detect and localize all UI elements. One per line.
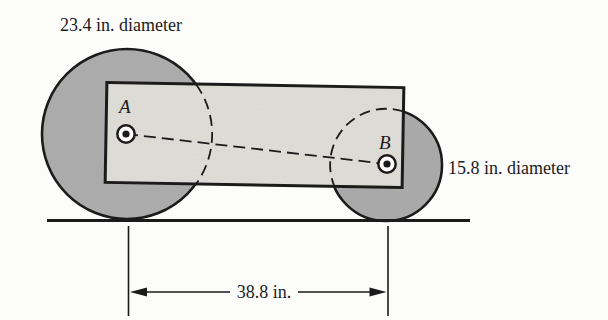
wheelbase-label: 38.8 in. bbox=[237, 282, 292, 302]
left-arrowhead-icon bbox=[130, 288, 147, 297]
vehicle-body-group bbox=[105, 82, 404, 187]
figure: A B 23.4 in. diameter 15.8 in. diameter … bbox=[0, 0, 608, 320]
point-a-label: A bbox=[117, 96, 131, 117]
right-wheel-diameter-label: 15.8 in. diameter bbox=[448, 158, 570, 178]
wheelbase-dimension: 38.8 in. bbox=[129, 226, 389, 316]
point-a-dot bbox=[122, 130, 129, 137]
right-arrowhead-icon bbox=[370, 288, 387, 297]
point-b-marker bbox=[378, 155, 395, 172]
vehicle-body bbox=[105, 82, 404, 187]
diagram-canvas: A B 23.4 in. diameter 15.8 in. diameter … bbox=[0, 0, 608, 320]
point-b-label: B bbox=[379, 132, 391, 153]
point-b-dot bbox=[383, 160, 390, 167]
point-a-marker bbox=[117, 125, 134, 142]
left-wheel-diameter-label: 23.4 in. diameter bbox=[60, 15, 182, 35]
